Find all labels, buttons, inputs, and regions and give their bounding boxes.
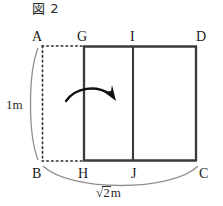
vertex-label-B: B xyxy=(32,167,41,181)
rotation-arrow-icon xyxy=(66,85,116,101)
vertex-label-C: C xyxy=(199,167,208,181)
figure-container: 図 2 A G I D B H J C 1m xyxy=(0,0,223,206)
radicand-value: 2 xyxy=(102,186,111,199)
vertex-label-D: D xyxy=(196,30,206,44)
vertex-label-G: G xyxy=(77,30,87,44)
vertex-label-I: I xyxy=(130,30,135,44)
vertex-label-J: J xyxy=(131,167,136,181)
unit-label: m xyxy=(111,185,121,200)
dimension-label-height: 1m xyxy=(6,98,23,111)
dimension-brace-left xyxy=(31,48,39,160)
rotation-arrow-curve xyxy=(66,89,110,101)
vertex-label-H: H xyxy=(78,167,88,181)
dimension-brace-bottom xyxy=(43,166,198,186)
dimension-label-width: √2m xyxy=(96,186,121,199)
dotted-square-AGHB xyxy=(42,46,83,161)
rotation-arrow-head xyxy=(104,85,116,101)
solid-rectangle-GDCH xyxy=(83,46,197,161)
vertex-label-A: A xyxy=(32,30,42,44)
